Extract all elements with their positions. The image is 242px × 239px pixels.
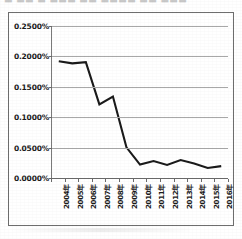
gridline — [52, 117, 228, 118]
y-axis-tickmark — [49, 26, 52, 27]
x-axis-tickmark — [92, 179, 93, 182]
y-axis-tick-label: 0.2000% — [14, 52, 49, 61]
x-axis-tickmark — [105, 179, 106, 182]
x-axis-tick-label: 2012年 — [170, 184, 180, 209]
x-axis-tickmark — [65, 179, 66, 182]
x-axis-tickmark — [214, 179, 215, 182]
plot-area — [51, 26, 228, 178]
cropped-title-strip: ▬ ▬▬ ▬ ▬▬▬ ▬▬ ▬▬▬▬ ▬▬ ▬▬▬ — [0, 0, 242, 8]
y-axis-tickmark — [49, 117, 52, 118]
x-axis-tickmark — [119, 179, 120, 182]
x-axis-tick-label: 2008年 — [115, 184, 125, 209]
x-axis-tickmark — [133, 179, 134, 182]
x-axis-tickmark — [51, 179, 52, 182]
x-axis-tick-label: 2015年 — [211, 184, 221, 209]
y-axis-tickmark — [49, 56, 52, 57]
x-axis-tick-label: 2009年 — [129, 184, 139, 209]
x-axis-tick-label: 2006年 — [88, 184, 98, 209]
x-axis-tick-label: 2014年 — [197, 184, 207, 209]
cropped-title-text: ▬ ▬▬ ▬ ▬▬▬ ▬▬ ▬▬▬▬ ▬▬ ▬▬▬ — [4, 0, 187, 5]
y-axis-tickmark — [49, 148, 52, 149]
x-axis-tickmark — [146, 179, 147, 182]
series-polyline — [59, 61, 221, 168]
x-axis-tick-label: 2004年 — [61, 184, 71, 209]
x-axis-tickmark — [174, 179, 175, 182]
y-axis-tick-label: 0.0500% — [14, 143, 49, 152]
scan-smudge — [10, 228, 190, 232]
x-axis-tickmark — [187, 179, 188, 182]
line-series — [52, 26, 228, 178]
x-axis-tick-label: 2011年 — [156, 184, 166, 209]
chart-frame: 0.2500%0.2000%0.1500%0.1000%0.0500%0.000… — [8, 12, 234, 226]
gridline — [52, 87, 228, 88]
y-axis-tick-label: 0.1000% — [14, 113, 49, 122]
x-axis: 2004年2005年2006年2007年2008年2009年2010年2011年… — [51, 179, 228, 223]
x-axis-tick-label: 2010年 — [143, 184, 153, 209]
y-axis-tick-label: 0.0000% — [14, 174, 49, 183]
x-axis-tick-label: 2016年 — [224, 184, 234, 209]
x-axis-tickmark — [228, 179, 229, 182]
chart-inner: 0.2500%0.2000%0.1500%0.1000%0.0500%0.000… — [9, 13, 233, 225]
x-axis-tickmark — [160, 179, 161, 182]
x-axis-tick-label: 2013年 — [184, 184, 194, 209]
y-axis-tick-label: 0.1500% — [14, 82, 49, 91]
x-axis-tickmark — [201, 179, 202, 182]
gridline — [52, 56, 228, 57]
gridline — [52, 148, 228, 149]
y-axis-tick-label: 0.2500% — [14, 22, 49, 31]
x-axis-tick-label: 2005年 — [75, 184, 85, 209]
x-axis-tick-label: 2007年 — [102, 184, 112, 209]
x-axis-tickmark — [78, 179, 79, 182]
y-axis: 0.2500%0.2000%0.1500%0.1000%0.0500%0.000… — [9, 26, 51, 178]
y-axis-tickmark — [49, 87, 52, 88]
gridline — [52, 26, 228, 27]
